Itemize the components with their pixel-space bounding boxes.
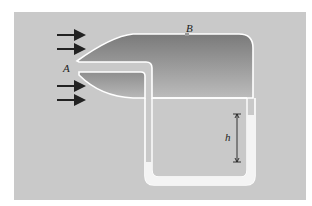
label-h: h (225, 131, 231, 143)
label-a: A (62, 62, 70, 74)
diagram-canvas: A B h (0, 0, 312, 206)
pitot-tube-diagram: A B h (0, 0, 312, 206)
side-opening-b (185, 33, 189, 36)
label-b: B (186, 22, 193, 34)
